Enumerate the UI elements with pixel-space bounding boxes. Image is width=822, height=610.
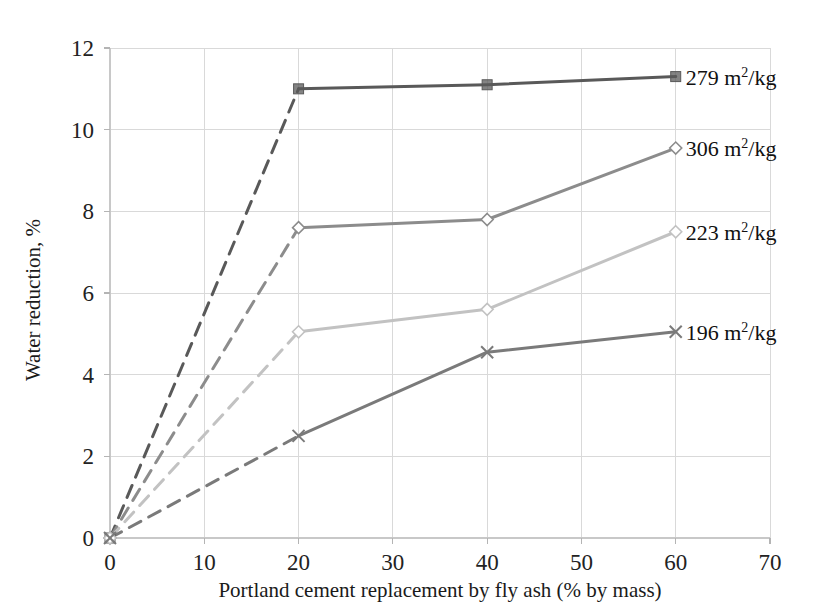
y-tick-label-10: 10 bbox=[71, 118, 94, 143]
series-label-value-306: 306 m bbox=[686, 136, 742, 161]
line-chart: 024681012 010203040506070 279 m2/kg306 m… bbox=[0, 0, 822, 610]
series-label-unit-279: /kg bbox=[748, 65, 776, 90]
x-axis-title: Portland cement replacement by fly ash (… bbox=[218, 578, 661, 602]
x-tick-label-10: 10 bbox=[193, 550, 216, 575]
series-279-marker-2 bbox=[482, 80, 492, 90]
y-tick-label-4: 4 bbox=[83, 363, 95, 388]
y-tick-label-6: 6 bbox=[83, 281, 95, 306]
x-tick-label-20: 20 bbox=[287, 550, 310, 575]
series-label-value-196: 196 m bbox=[686, 320, 742, 345]
series-label-196: 196 m2/kg bbox=[686, 320, 777, 345]
chart-figure: 024681012 010203040506070 279 m2/kg306 m… bbox=[0, 0, 822, 610]
series-label-exponent-279: 2 bbox=[741, 65, 748, 80]
series-label-value-279: 279 m bbox=[686, 65, 742, 90]
series-label-unit-196: /kg bbox=[748, 320, 776, 345]
series-label-223: 223 m2/kg bbox=[686, 220, 777, 245]
y-tick-label-2: 2 bbox=[83, 444, 95, 469]
x-tick-label-40: 40 bbox=[476, 550, 499, 575]
y-tick-label-12: 12 bbox=[71, 36, 94, 61]
x-tick-label-30: 30 bbox=[381, 550, 404, 575]
series-label-value-223: 223 m bbox=[686, 220, 742, 245]
series-label-exponent-223: 2 bbox=[741, 220, 748, 235]
x-tick-label-60: 60 bbox=[664, 550, 687, 575]
series-label-306: 306 m2/kg bbox=[686, 136, 777, 161]
series-label-exponent-196: 2 bbox=[741, 320, 748, 335]
y-tick-label-0: 0 bbox=[83, 526, 95, 551]
x-tick-label-50: 50 bbox=[570, 550, 593, 575]
x-tick-label-0: 0 bbox=[104, 550, 116, 575]
series-279-marker-1 bbox=[294, 84, 304, 94]
x-tick-label-70: 70 bbox=[759, 550, 782, 575]
y-axis-title: Water reduction, % bbox=[21, 219, 45, 381]
series-label-unit-306: /kg bbox=[748, 136, 776, 161]
series-label-279: 279 m2/kg bbox=[686, 65, 777, 90]
series-279-marker-3 bbox=[671, 72, 681, 82]
series-label-unit-223: /kg bbox=[748, 220, 776, 245]
series-label-exponent-306: 2 bbox=[741, 136, 748, 151]
y-tick-label-8: 8 bbox=[83, 199, 95, 224]
